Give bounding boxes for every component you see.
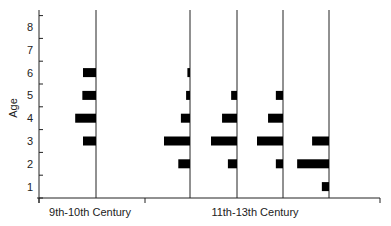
group-label-11th-13th: 11th-13th Century [211,206,299,218]
y-tick-label: 8 [27,21,33,33]
bar [187,68,190,77]
bar [211,137,237,146]
bar [228,159,237,168]
bar [297,159,329,168]
y-tick-label: 4 [27,112,33,124]
bar [82,91,96,100]
y-tick-label: 5 [27,89,33,101]
y-tick-label: 3 [27,135,33,147]
group-label-9th-10th: 9th-10th Century [49,206,131,218]
y-axis-label: Age [7,98,19,118]
kite-chart: 12345678 Age 9th-10th Century 11th-13th … [0,0,391,226]
bar [186,91,190,100]
bar [276,91,283,100]
bar [181,114,190,123]
bar [257,137,283,146]
bar [322,182,329,191]
bar [75,114,96,123]
bar [231,91,237,100]
bar [276,159,283,168]
y-tick-label: 7 [27,44,33,56]
bar [164,137,190,146]
bar [222,114,237,123]
y-tick-label: 2 [27,158,33,170]
bar [83,137,96,146]
bars [75,68,329,191]
bar [312,137,329,146]
y-tick-label: 6 [27,67,33,79]
y-tick-label: 1 [27,181,33,193]
bar [83,68,96,77]
bar [178,159,190,168]
axes: 12345678 [27,10,380,203]
bar [268,114,283,123]
